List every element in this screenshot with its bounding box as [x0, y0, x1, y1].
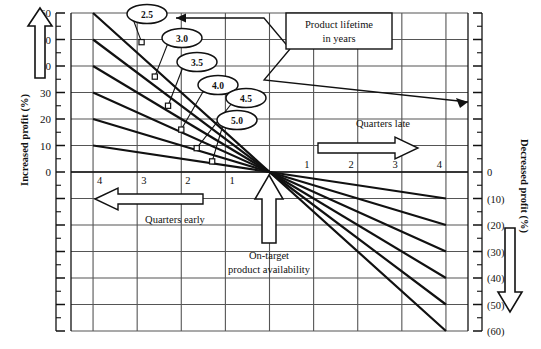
left-axis-title: Increased profit (%)	[19, 94, 31, 186]
right-y-tick-label: (60)	[487, 326, 505, 338]
left-y-tick-label: 30	[40, 87, 52, 99]
x-tick-label-early: 4	[97, 175, 103, 186]
decreased-profit-down-arrow-icon	[498, 228, 522, 312]
x-tick-label-late: 2	[348, 159, 353, 170]
series-marker-4-0	[179, 127, 184, 132]
right-y-tick-label: (50)	[487, 300, 505, 312]
series-marker-3-0	[152, 74, 157, 79]
callout-oval-label: 5.0	[231, 116, 243, 126]
x-tick-label-late: 3	[393, 159, 398, 170]
right-y-tick-label: (30)	[487, 247, 505, 259]
callout-oval-label: 3.0	[176, 34, 188, 44]
on-target-up-arrow-icon	[255, 175, 283, 243]
quarters-early-annotation: Quarters early	[95, 188, 206, 225]
quarters-early-arrow-icon	[95, 188, 203, 210]
series-marker-3-5	[165, 103, 170, 108]
x-tick-label-early: 1	[229, 175, 234, 186]
callout-oval-label: 4.0	[212, 81, 224, 91]
left-y-tick-label: 0	[46, 166, 52, 178]
x-tick-label-early: 2	[185, 175, 190, 186]
series-marker-5-0	[210, 159, 215, 164]
on-target-label-line1: On-target	[249, 250, 289, 261]
callout-oval-label: 4.5	[240, 94, 252, 104]
legend-box-line1: Product lifetime	[305, 19, 373, 30]
right-y-axis: 0(10)(20)(30)(40)(50)(60)Decreased profi…	[473, 13, 530, 338]
quarters-late-annotation: Quarters late	[318, 118, 418, 159]
legend-box-line2: in years	[323, 33, 356, 44]
legend-leader-arrowhead-lower	[456, 98, 468, 108]
callout-oval-label: 3.5	[191, 58, 203, 68]
on-target-label-line2: product availability	[228, 264, 311, 275]
right-axis-title: Decreased profit (%)	[518, 139, 530, 234]
x-tick-label-early: 3	[141, 175, 146, 186]
chart-figure: 2.53.03.54.04.55.06050403020100Increased…	[0, 0, 541, 349]
callout-oval-label: 2.5	[141, 10, 153, 20]
legend-leader-lower	[264, 49, 468, 102]
right-y-tick-label: (10)	[487, 194, 505, 206]
right-y-tick-label: (40)	[487, 273, 505, 285]
series-marker-2-5	[139, 40, 144, 45]
quarters-late-label: Quarters late	[356, 118, 410, 129]
left-y-axis: 6050403020100Increased profit (%)	[19, 7, 65, 331]
x-tick-label-late: 1	[304, 159, 309, 170]
quarters-late-arrow-icon	[318, 137, 418, 159]
left-y-tick-label: 10	[40, 140, 52, 152]
left-y-tick-label: 20	[40, 113, 52, 125]
profit-vs-timing-chart: 2.53.03.54.04.55.06050403020100Increased…	[0, 0, 541, 349]
right-y-tick-label: (20)	[487, 220, 505, 232]
right-y-tick-label: 0	[487, 167, 492, 178]
series-marker-4-5	[194, 146, 199, 151]
quarters-early-label: Quarters early	[145, 214, 206, 225]
x-tick-label-late: 4	[437, 159, 443, 170]
callout-leader-3-0	[155, 43, 168, 77]
